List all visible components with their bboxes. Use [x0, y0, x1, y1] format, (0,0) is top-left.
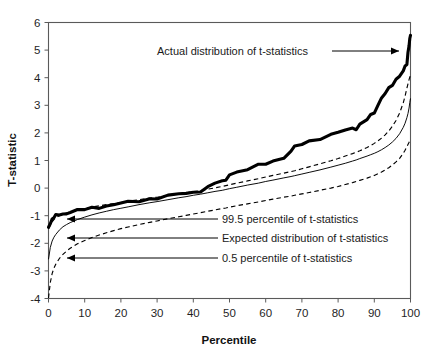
x-axis-ticks: 0102030405060708090100	[45, 299, 420, 319]
chart-figure: -4-3-2-10123456 0102030405060708090100 A…	[0, 0, 433, 356]
y-tick-label: -4	[30, 293, 41, 305]
y-axis-title: T-statistic	[6, 133, 18, 187]
y-tick-label: -2	[30, 237, 40, 249]
y-tick-label: 6	[34, 17, 40, 29]
y-tick-label: 4	[34, 72, 41, 84]
x-axis-title: Percentile	[202, 334, 257, 346]
x-tick-label: 100	[401, 307, 420, 319]
x-tick-label: 30	[151, 307, 164, 319]
x-tick-label: 70	[296, 307, 309, 319]
x-tick-label: 50	[223, 307, 236, 319]
arrow-left-icon	[67, 216, 75, 223]
x-tick-label: 60	[259, 307, 272, 319]
y-tick-label: 2	[34, 127, 40, 139]
y-tick-label: -1	[30, 210, 40, 222]
y-tick-label: 3	[34, 99, 40, 111]
y-tick-label: 5	[34, 44, 40, 56]
annotation-lower-percentile: 0.5 percentile of t-statistics	[67, 252, 353, 264]
series-actual-distribution	[49, 35, 411, 227]
y-tick-label: -3	[30, 265, 40, 277]
x-tick-label: 40	[187, 307, 200, 319]
chart-svg: -4-3-2-10123456 0102030405060708090100 A…	[0, 0, 433, 356]
x-tick-label: 0	[45, 307, 51, 319]
annotation-upper-percentile: 99.5 percentile of t-statistics	[67, 213, 359, 225]
annotation-actual-distribution: Actual distribution of t-statistics	[157, 45, 399, 57]
arrow-right-icon	[391, 48, 399, 55]
annotation-actual-label: Actual distribution of t-statistics	[157, 45, 309, 57]
x-tick-label: 80	[332, 307, 345, 319]
x-tick-label: 20	[115, 307, 128, 319]
arrow-left-icon	[67, 235, 75, 242]
y-tick-label: 1	[34, 155, 40, 167]
annotation-lower-label: 0.5 percentile of t-statistics	[222, 252, 353, 264]
arrow-left-icon	[67, 255, 75, 262]
annotation-expected-label: Expected distribution of t-statistics	[222, 232, 389, 244]
annotation-upper-label: 99.5 percentile of t-statistics	[222, 213, 359, 225]
y-tick-label: 0	[34, 182, 40, 194]
y-axis-ticks: -4-3-2-10123456	[30, 17, 48, 305]
x-tick-label: 90	[368, 307, 381, 319]
x-tick-label: 10	[78, 307, 91, 319]
annotation-expected-distribution: Expected distribution of t-statistics	[67, 232, 389, 244]
